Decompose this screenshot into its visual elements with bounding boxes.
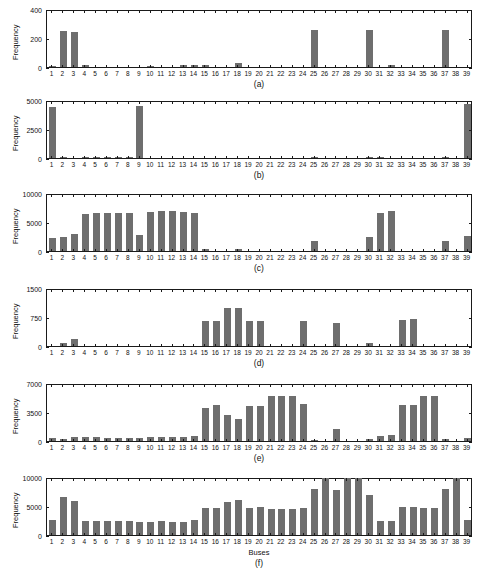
- x-tick-mark: [51, 65, 52, 68]
- y-tick-mark-right: [469, 507, 472, 508]
- y-tick-mark-right: [469, 252, 472, 253]
- x-tick-mark-top: [314, 384, 315, 387]
- x-tick-mark: [467, 533, 468, 536]
- x-tick-mark-top: [51, 101, 52, 104]
- x-tick-mark: [335, 249, 336, 252]
- bar: [180, 522, 187, 535]
- x-tick-mark: [117, 65, 118, 68]
- x-tick-mark-top: [368, 384, 369, 387]
- bar: [377, 436, 384, 441]
- y-tick-mark-right: [469, 101, 472, 102]
- x-tick-mark-top: [215, 10, 216, 13]
- x-tick-mark: [434, 439, 435, 442]
- x-tick-label: 9: [137, 349, 141, 356]
- x-tick-label: 25: [310, 254, 317, 261]
- y-tick-label: 2500: [0, 127, 42, 134]
- x-tick-mark: [95, 65, 96, 68]
- bar: [431, 508, 438, 535]
- x-tick-label: 35: [419, 161, 426, 168]
- x-tick-mark-top: [445, 384, 446, 387]
- x-tick-label: 4: [82, 349, 86, 356]
- x-tick-mark: [237, 533, 238, 536]
- bar: [202, 321, 209, 346]
- x-tick-mark-top: [259, 478, 260, 481]
- x-tick-label: 33: [397, 70, 404, 77]
- x-tick-label: 16: [212, 254, 219, 261]
- x-tick-mark: [117, 439, 118, 442]
- x-tick-mark-top: [401, 289, 402, 292]
- x-tick-label: 13: [179, 161, 186, 168]
- x-tick-mark: [51, 439, 52, 442]
- y-tick-label: 1500: [0, 286, 42, 293]
- x-tick-mark-top: [303, 194, 304, 197]
- x-tick-mark-top: [325, 384, 326, 387]
- bar: [333, 429, 340, 441]
- bar: [235, 500, 242, 535]
- y-tick-mark: [46, 384, 49, 385]
- x-tick-mark: [434, 156, 435, 159]
- x-tick-label: 27: [332, 349, 339, 356]
- x-tick-mark-top: [95, 289, 96, 292]
- x-tick-label: 30: [365, 349, 372, 356]
- x-tick-mark-top: [434, 289, 435, 292]
- x-tick-label: 18: [234, 70, 241, 77]
- bar: [442, 489, 449, 535]
- chart-panel-e: 035007000Frequency1234567891011121314151…: [0, 0, 482, 571]
- y-axis-label: Frequency: [11, 304, 20, 339]
- x-tick-label: 16: [212, 349, 219, 356]
- x-tick-label: 5: [93, 70, 97, 77]
- bar: [257, 321, 264, 346]
- x-tick-label: 23: [288, 349, 295, 356]
- x-tick-mark: [193, 533, 194, 536]
- x-tick-mark: [303, 156, 304, 159]
- x-tick-label: 16: [212, 161, 219, 168]
- bar: [333, 490, 340, 535]
- x-tick-mark-top: [456, 101, 457, 104]
- x-tick-mark-top: [237, 10, 238, 13]
- x-tick-label: 38: [452, 349, 459, 356]
- x-tick-mark: [379, 344, 380, 347]
- x-tick-mark: [73, 439, 74, 442]
- x-tick-mark: [412, 65, 413, 68]
- x-tick-label: 12: [168, 349, 175, 356]
- x-tick-mark-top: [379, 478, 380, 481]
- x-tick-mark-top: [161, 478, 162, 481]
- x-tick-label: 4: [82, 538, 86, 545]
- x-tick-mark: [434, 65, 435, 68]
- x-tick-label: 33: [397, 349, 404, 356]
- x-tick-label: 5: [93, 444, 97, 451]
- x-tick-mark: [390, 65, 391, 68]
- x-tick-mark-top: [434, 194, 435, 197]
- x-tick-mark: [456, 439, 457, 442]
- x-tick-mark-top: [259, 384, 260, 387]
- bar: [82, 65, 89, 67]
- x-tick-mark: [412, 249, 413, 252]
- x-tick-label: 6: [104, 538, 108, 545]
- x-tick-mark: [423, 439, 424, 442]
- x-tick-mark-top: [379, 194, 380, 197]
- bar: [311, 241, 318, 251]
- x-tick-mark-top: [456, 10, 457, 13]
- x-tick-mark: [390, 439, 391, 442]
- x-tick-mark: [292, 65, 293, 68]
- x-tick-label: 1: [50, 254, 54, 261]
- x-tick-label: 37: [441, 70, 448, 77]
- x-tick-mark: [412, 344, 413, 347]
- x-tick-mark-top: [193, 384, 194, 387]
- x-tick-mark-top: [193, 101, 194, 104]
- x-tick-mark: [467, 344, 468, 347]
- x-tick-label: 36: [430, 538, 437, 545]
- x-tick-label: 36: [430, 444, 437, 451]
- x-tick-label: 38: [452, 254, 459, 261]
- x-tick-mark: [139, 344, 140, 347]
- x-tick-mark-top: [150, 478, 151, 481]
- x-tick-mark-top: [445, 10, 446, 13]
- plot-area: [46, 478, 472, 536]
- y-tick-mark: [46, 478, 49, 479]
- x-tick-mark-top: [423, 101, 424, 104]
- x-tick-mark: [106, 533, 107, 536]
- x-tick-mark: [84, 156, 85, 159]
- x-tick-label: 23: [288, 70, 295, 77]
- x-tick-mark-top: [456, 478, 457, 481]
- x-tick-mark-top: [390, 10, 391, 13]
